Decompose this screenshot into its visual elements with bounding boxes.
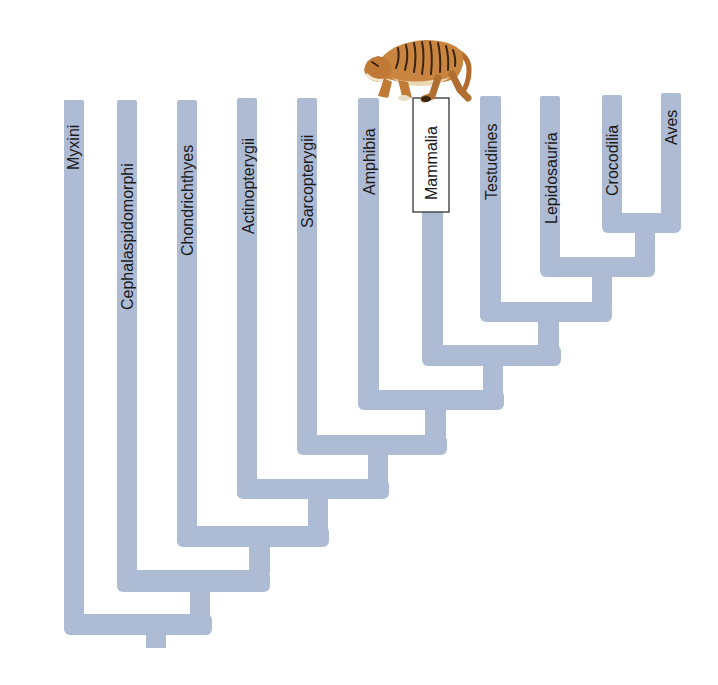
link-ceph	[190, 588, 210, 618]
label-sarcopterygii: Sarcopterygii	[299, 135, 316, 228]
label-cephalaspidomorphi: Cephalaspidomorphi	[119, 163, 136, 310]
link-sarcopterygii	[368, 451, 388, 483]
tiger-icon	[364, 40, 469, 102]
link-testudines	[538, 318, 559, 349]
label-mammalia: Mammalia	[423, 126, 440, 200]
label-crocodilia: Crocodilia	[604, 125, 621, 196]
link-chondrichthyes	[249, 543, 270, 573]
bar-myxini	[64, 614, 212, 635]
label-testudines: Testudines	[483, 124, 500, 201]
stem-myxini	[64, 100, 84, 630]
link-lepidosauria	[592, 273, 612, 306]
cladogram: Myxini Cephalaspidomorphi Chondrichthyes…	[0, 0, 718, 685]
link-archosauria	[635, 229, 655, 261]
label-lepidosauria: Lepidosauria	[543, 132, 560, 224]
label-aves: Aves	[663, 110, 680, 145]
label-actinopterygii: Actinopterygii	[240, 138, 257, 234]
label-chondrichthyes: Chondrichthyes	[179, 145, 196, 256]
link-amphibia	[425, 406, 446, 438]
label-amphibia: Amphibia	[361, 128, 378, 195]
stem-mammalia	[422, 205, 443, 362]
link-mammalia	[483, 362, 503, 394]
link-actinopterygii	[308, 495, 328, 529]
label-myxini: Myxini	[65, 125, 82, 170]
